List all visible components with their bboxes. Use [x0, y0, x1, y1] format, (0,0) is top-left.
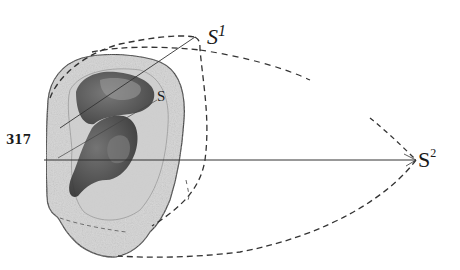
- label-s1: S1: [207, 22, 226, 50]
- dashed-outline-s2-upper: [370, 118, 416, 160]
- dashed-outline-s2-mid: [186, 180, 189, 200]
- label-s1-base: S: [207, 24, 218, 49]
- diagram-drawing: [0, 0, 460, 270]
- label-s1-superscript: 1: [218, 22, 226, 39]
- label-s2-base: S: [418, 147, 430, 172]
- ear-projection-diagram: 317 S S1 S2: [0, 0, 460, 270]
- dashed-outline-s1-inner: [92, 47, 200, 52]
- label-s2-superscript: 2: [430, 146, 436, 160]
- dashed-outline-s1-far: [200, 50, 310, 80]
- label-s2: S2: [418, 146, 436, 173]
- label-s: S: [157, 88, 165, 105]
- figure-number: 317: [6, 133, 31, 147]
